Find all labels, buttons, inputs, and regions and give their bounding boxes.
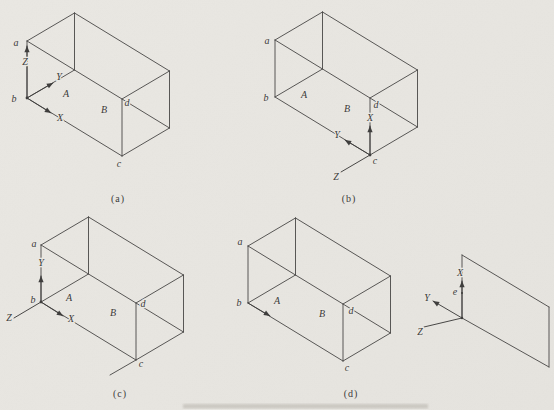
fig-c-point-label-c: c: [139, 358, 144, 369]
fig-b-point-label-b: b: [264, 92, 269, 103]
fig-c-x-axis-label: X: [67, 313, 75, 324]
fig-a-point-label-c: c: [117, 158, 122, 169]
scanned-textbook-page: a b c d A B Z Y X (a) a: [0, 0, 554, 410]
fig-d-face-label-A: A: [273, 295, 281, 306]
fig-b-face-label-A: A: [300, 89, 308, 100]
fig-a-face-label-A: A: [62, 88, 70, 99]
fig-b-x-axis-label: X: [366, 112, 374, 123]
fig-b-caption: (b): [342, 193, 357, 205]
fig-d-face-label-B: B: [319, 308, 325, 319]
axes-origin-point: [461, 317, 463, 319]
fig-b-z-axis-label: Z: [333, 171, 339, 182]
fig-a-z-axis-label: Z: [22, 56, 28, 67]
fig-c-point-label-b: b: [31, 294, 36, 305]
fig-d-point-label-a: a: [238, 236, 243, 247]
fig-d-point-label-c: c: [345, 362, 350, 373]
origin-point-b: [26, 97, 29, 100]
axonometric-diagram: a b c d A B Z Y X (a) a: [0, 0, 554, 410]
fig-b-face-label-B: B: [344, 103, 350, 114]
fig-b-point-label-a: a: [265, 35, 270, 46]
fig-c-z-axis-label: Z: [6, 312, 12, 323]
scan-artifact-smudge: [183, 404, 428, 409]
fig-c-face-label-B: B: [110, 307, 116, 318]
fig-a-point-label-a: a: [14, 37, 19, 48]
fig-b-point-label-c: c: [373, 155, 378, 166]
fig-d-caption: (d): [344, 388, 359, 400]
origin-point-c: [369, 154, 372, 157]
fig-a-face-label-B: B: [101, 104, 107, 115]
plane-point-label-e: e: [453, 286, 458, 297]
fig-c-caption: (c): [113, 388, 127, 400]
plane-x-axis-label: X: [456, 267, 464, 278]
fig-c-point-label-a: a: [32, 238, 37, 249]
fig-a-caption: (a): [111, 193, 125, 205]
fig-d-point-label-b: b: [237, 297, 242, 308]
point-e-dot: [461, 292, 463, 294]
origin-point-b: [40, 301, 43, 304]
fig-a-point-label-b: b: [12, 93, 17, 104]
fig-a-x-axis-label: X: [56, 112, 64, 123]
plane-z-axis-label: Z: [417, 326, 423, 337]
paper-grain-texture: [0, 0, 554, 410]
fig-c-face-label-A: A: [65, 292, 73, 303]
